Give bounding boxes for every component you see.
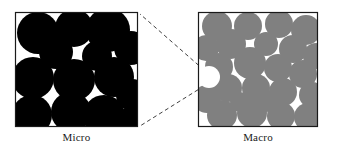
panel-macro	[193, 10, 329, 131]
particle	[230, 92, 250, 112]
panel-micro	[12, 8, 148, 137]
particle	[12, 57, 54, 99]
particle	[264, 54, 292, 82]
macro-panel-caption: Macro	[198, 131, 318, 143]
panel-macro-particles	[193, 10, 329, 131]
panel-micro-particles	[12, 8, 148, 137]
micro-panel-caption: Micro	[15, 131, 138, 143]
particle	[234, 47, 266, 79]
callout-dashed-line-2	[140, 86, 204, 126]
particle	[255, 90, 277, 112]
particle	[12, 95, 52, 135]
callout-group	[140, 14, 204, 126]
callout-dashed-line-1	[140, 14, 204, 70]
void-pore	[198, 66, 220, 88]
